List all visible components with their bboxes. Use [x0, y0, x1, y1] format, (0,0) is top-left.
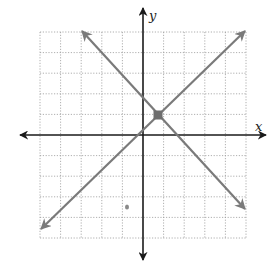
- coordinate-plane: x y: [0, 0, 279, 267]
- x-axis-label: x: [255, 119, 263, 134]
- intersection-point: [154, 111, 163, 120]
- y-axis-label: y: [148, 8, 157, 23]
- stray-mark: [125, 205, 129, 210]
